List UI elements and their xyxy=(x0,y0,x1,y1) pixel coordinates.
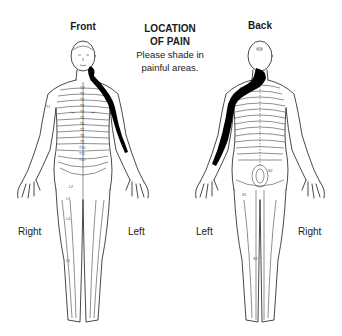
back-dermatome-labels: S2 S1 S2 xyxy=(242,169,272,261)
svg-text:S2: S2 xyxy=(268,169,272,173)
svg-text:S1: S1 xyxy=(242,193,246,197)
svg-text:S2: S2 xyxy=(253,257,257,261)
back-head xyxy=(248,41,272,71)
back-body-figure[interactable]: S2 S1 S2 xyxy=(0,0,342,336)
